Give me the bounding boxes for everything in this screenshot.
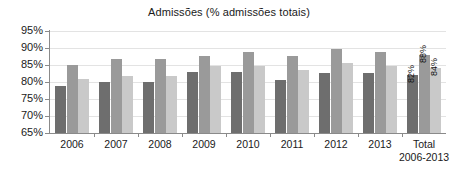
bar: [187, 72, 198, 133]
y-axis-tick-label: 85%: [1, 58, 43, 70]
bar: [199, 56, 210, 133]
bar: [419, 55, 430, 133]
x-axis-tick: [402, 133, 403, 137]
x-axis-label-line1: 2010: [236, 138, 259, 150]
bar: [55, 86, 66, 133]
bar: [243, 52, 254, 133]
x-axis-label-line2: 2006-2013: [394, 151, 454, 163]
chart-title: Admissões (% admissões totais): [0, 6, 458, 18]
x-axis-label-line1: Total: [413, 138, 435, 150]
bar: [210, 66, 221, 133]
x-axis-label-line1: 2012: [324, 138, 347, 150]
x-axis-tick: [138, 133, 139, 137]
bar: [386, 66, 397, 133]
x-axis-label-line1: 2011: [281, 138, 304, 150]
x-axis-label: Total2006-2013: [394, 138, 454, 163]
bar-group: [319, 31, 353, 133]
bar: [287, 56, 298, 133]
bar: [99, 82, 110, 133]
y-axis-tick-label: 65%: [1, 126, 43, 138]
x-axis-line: [49, 133, 446, 134]
x-axis-label-line1: 2008: [148, 138, 171, 150]
bar-chart: Admissões (% admissões totais) 95%90%85%…: [0, 0, 458, 175]
x-axis-tick: [226, 133, 227, 137]
y-axis-tick-label: 95%: [1, 24, 43, 36]
x-axis-tick: [270, 133, 271, 137]
bar: [430, 68, 441, 133]
bar: [78, 79, 89, 133]
bar: [254, 66, 265, 133]
bar: [143, 82, 154, 133]
bar-group: [143, 31, 177, 133]
x-axis-tick: [94, 133, 95, 137]
y-axis-labels: 95%90%85%80%75%70%65%: [0, 31, 43, 133]
y-axis-tick-label: 80%: [1, 75, 43, 87]
y-axis-tick-label: 70%: [1, 109, 43, 121]
bar: [375, 52, 386, 133]
bar-value-label: 82%: [406, 65, 416, 83]
bar-group: [99, 31, 133, 133]
bar: [111, 59, 122, 133]
bar: [363, 73, 374, 133]
plot-area: 82%88%84%: [50, 31, 446, 133]
x-axis-label-line1: 2007: [104, 138, 127, 150]
x-axis-tick: [314, 133, 315, 137]
y-axis-tick-label: 75%: [1, 92, 43, 104]
bar: [231, 72, 242, 133]
bar: [407, 75, 418, 133]
x-axis-tick: [182, 133, 183, 137]
bar-group: [275, 31, 309, 133]
bar: [122, 76, 133, 133]
bar: [155, 59, 166, 133]
x-axis-label-line1: 2009: [192, 138, 215, 150]
bar: [331, 49, 342, 133]
bar: [166, 76, 177, 133]
bar-value-label: 84%: [429, 58, 439, 76]
bar: [298, 70, 309, 133]
bar-group: [363, 31, 397, 133]
y-axis-tick-label: 90%: [1, 41, 43, 53]
bar-value-label: 88%: [418, 45, 428, 63]
bar: [319, 73, 330, 133]
x-axis-tick: [358, 133, 359, 137]
bar-group: [231, 31, 265, 133]
bar: [342, 63, 353, 133]
bar: [67, 65, 78, 133]
x-axis-label-line1: 2006: [60, 138, 83, 150]
bar: [275, 80, 286, 133]
bar-group: [55, 31, 89, 133]
x-axis-label-line1: 2013: [368, 138, 391, 150]
bar-group: [187, 31, 221, 133]
